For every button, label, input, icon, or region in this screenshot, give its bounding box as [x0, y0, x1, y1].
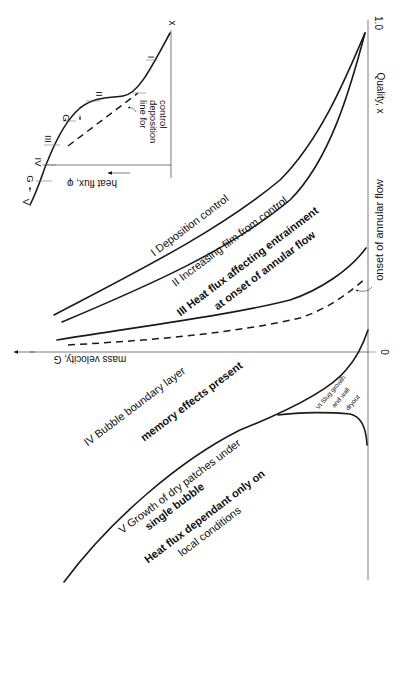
inset-deposition-note: line for deposition control: [138, 100, 169, 143]
inset-mark-III: III: [43, 135, 54, 143]
flow-regime-diagram: x V G IV III G II I line for deposition …: [0, 0, 413, 673]
svg-text:memory effects present: memory effects present: [138, 359, 245, 443]
inset-mark-G-low: G: [25, 175, 36, 182]
inset-deposition-line: [68, 93, 138, 146]
inset-mark-IV: IV: [33, 158, 44, 168]
inset-mark-V: V: [21, 199, 32, 206]
svg-text:IV Bubble boundary layer: IV Bubble boundary layer: [81, 364, 187, 448]
inset-mark-I: I: [146, 56, 157, 59]
onset-annular-pointer: [356, 287, 372, 291]
inset-mark-II: II: [94, 91, 105, 96]
tick-label-0: 0: [379, 349, 390, 355]
mass-velocity-label: mass velocity, G: [53, 354, 126, 365]
inset-deposition-pointer: [128, 108, 136, 112]
inset-mark-G-high: G: [61, 114, 72, 121]
boundary-VI: [278, 413, 367, 445]
onset-annular-label: onset of annular flow: [373, 179, 385, 281]
inset-y-label: heat flux, φ: [67, 178, 117, 189]
label-region-VI: VI Slug growth and wall dryout: [314, 374, 362, 413]
svg-text:line for: line for: [138, 100, 149, 129]
tick-label-1: 1.0: [373, 16, 384, 30]
label-region-IV: IV Bubble boundary layer memory effects …: [81, 359, 244, 448]
svg-text:dryout: dryout: [344, 393, 362, 412]
quality-axis-label: Quality, x: [375, 73, 386, 114]
svg-text:deposition: deposition: [148, 100, 159, 143]
inset-chart: x V G IV III G II I line for deposition …: [21, 21, 178, 206]
boundary-curves: [54, 33, 368, 582]
inset-x-label: x: [167, 21, 178, 26]
svg-text:control: control: [158, 100, 169, 129]
boundary-I-II: [54, 33, 365, 315]
